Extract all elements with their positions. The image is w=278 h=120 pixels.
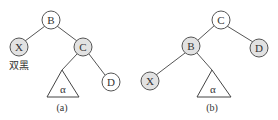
svg-text:C: C <box>217 14 224 26</box>
edge-b-c <box>57 26 77 41</box>
subtree-alpha: α <box>47 70 79 97</box>
node-b: B <box>42 11 60 29</box>
edge-b-x <box>156 53 185 75</box>
double-black-label: 双黑 <box>9 60 29 71</box>
svg-text:B: B <box>187 40 194 52</box>
edge-b-alpha <box>197 53 212 70</box>
node-c: C <box>74 38 92 56</box>
node-x: X <box>10 38 28 56</box>
svg-text:D: D <box>255 42 263 54</box>
node-x: X <box>141 72 159 90</box>
node-d: D <box>250 39 268 57</box>
figure-b: C B D X α (b) <box>141 11 268 114</box>
caption-a: (a) <box>56 102 67 114</box>
figure-a: B X C D α 双黑 (a) <box>9 11 120 114</box>
edge-c-alpha <box>62 54 77 70</box>
svg-text:X: X <box>15 41 23 53</box>
svg-text:α: α <box>60 83 66 95</box>
edge-c-d <box>89 54 105 75</box>
svg-text:X: X <box>146 75 154 87</box>
node-b: B <box>182 37 200 55</box>
caption-b: (b) <box>206 102 218 114</box>
edge-c-b <box>197 25 215 41</box>
svg-text:α: α <box>210 83 216 95</box>
svg-text:B: B <box>47 14 54 26</box>
node-c: C <box>212 11 230 29</box>
svg-text:C: C <box>79 41 86 53</box>
svg-text:D: D <box>107 76 115 88</box>
tree-rotation-diagram: B X C D α 双黑 (a) C B <box>0 0 278 120</box>
node-d: D <box>102 73 120 91</box>
edge-c-d <box>227 26 253 42</box>
edge-b-x <box>25 26 45 41</box>
subtree-alpha: α <box>197 70 231 97</box>
